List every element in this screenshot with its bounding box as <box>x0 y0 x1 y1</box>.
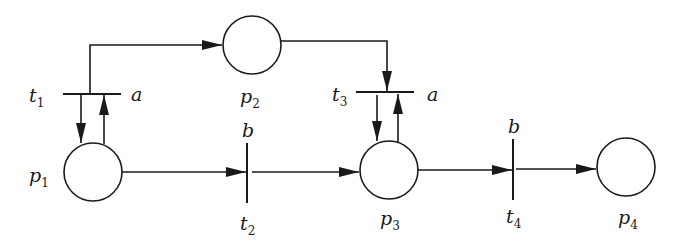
label-p4: p4 <box>618 206 638 232</box>
place-p1[interactable] <box>64 143 122 201</box>
arcs <box>81 41 596 172</box>
label-t4: t4 <box>506 205 522 231</box>
label-t2: t2 <box>240 212 255 238</box>
petri-net-diagram: t1 a p2 t3 a b t2 p1 p3 b t4 p4 <box>0 0 679 245</box>
label-t3: t3 <box>332 83 347 109</box>
label-p1: p1 <box>29 164 49 190</box>
places <box>64 16 655 201</box>
label-t1: t1 <box>29 84 44 110</box>
label-p3: p3 <box>380 207 400 233</box>
place-p4[interactable] <box>597 138 655 196</box>
label-t4-action: b <box>508 115 520 137</box>
label-t2-action: b <box>242 119 254 141</box>
transitions <box>63 92 513 203</box>
label-p2: p2 <box>240 85 260 111</box>
arc-t1-p2 <box>90 45 222 93</box>
place-p2[interactable] <box>223 16 281 74</box>
place-p3[interactable] <box>360 141 418 199</box>
label-t1-action: a <box>131 83 142 105</box>
label-t3-action: a <box>427 83 438 105</box>
